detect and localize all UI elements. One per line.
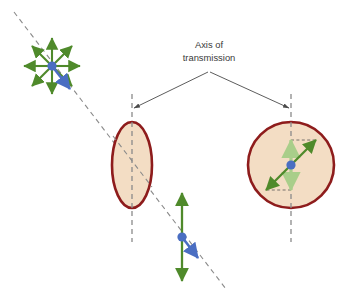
diagram-canvas: Axis of transmission xyxy=(0,0,347,293)
axis-of-transmission-label-line2: transmission xyxy=(183,52,236,63)
polarized-center-dot xyxy=(177,232,186,241)
polarized-vertical-arrow xyxy=(177,193,198,281)
axis-of-transmission-label-line1: Axis of xyxy=(195,39,224,50)
unpolarized-light-starburst xyxy=(24,38,80,94)
leader-line-right xyxy=(210,72,289,108)
polarizer-circle-center-dot xyxy=(286,160,295,169)
leader-line-left xyxy=(134,72,208,108)
starburst-center-dot xyxy=(47,61,56,70)
polarization-diagram: Axis of transmission xyxy=(0,0,347,293)
